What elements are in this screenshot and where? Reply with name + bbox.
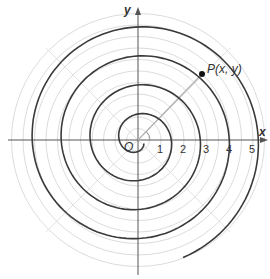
origin-label: O	[124, 141, 133, 153]
polar-spiral-figure: y x O P(x, y) 1 2 3 4 5	[0, 0, 270, 279]
point-p	[199, 71, 205, 77]
tick-label-4: 4	[226, 144, 232, 155]
y-axis-label: y	[124, 4, 131, 16]
point-label: P(x, y)	[207, 63, 242, 75]
tick-label-5: 5	[249, 144, 255, 155]
tick-label-3: 3	[203, 144, 209, 155]
tick-label-2: 2	[180, 144, 186, 155]
x-axis-label: x	[259, 126, 266, 138]
tick-label-1: 1	[157, 144, 163, 155]
spiral-plot	[0, 0, 270, 279]
y-axis-arrow-icon	[135, 7, 141, 15]
